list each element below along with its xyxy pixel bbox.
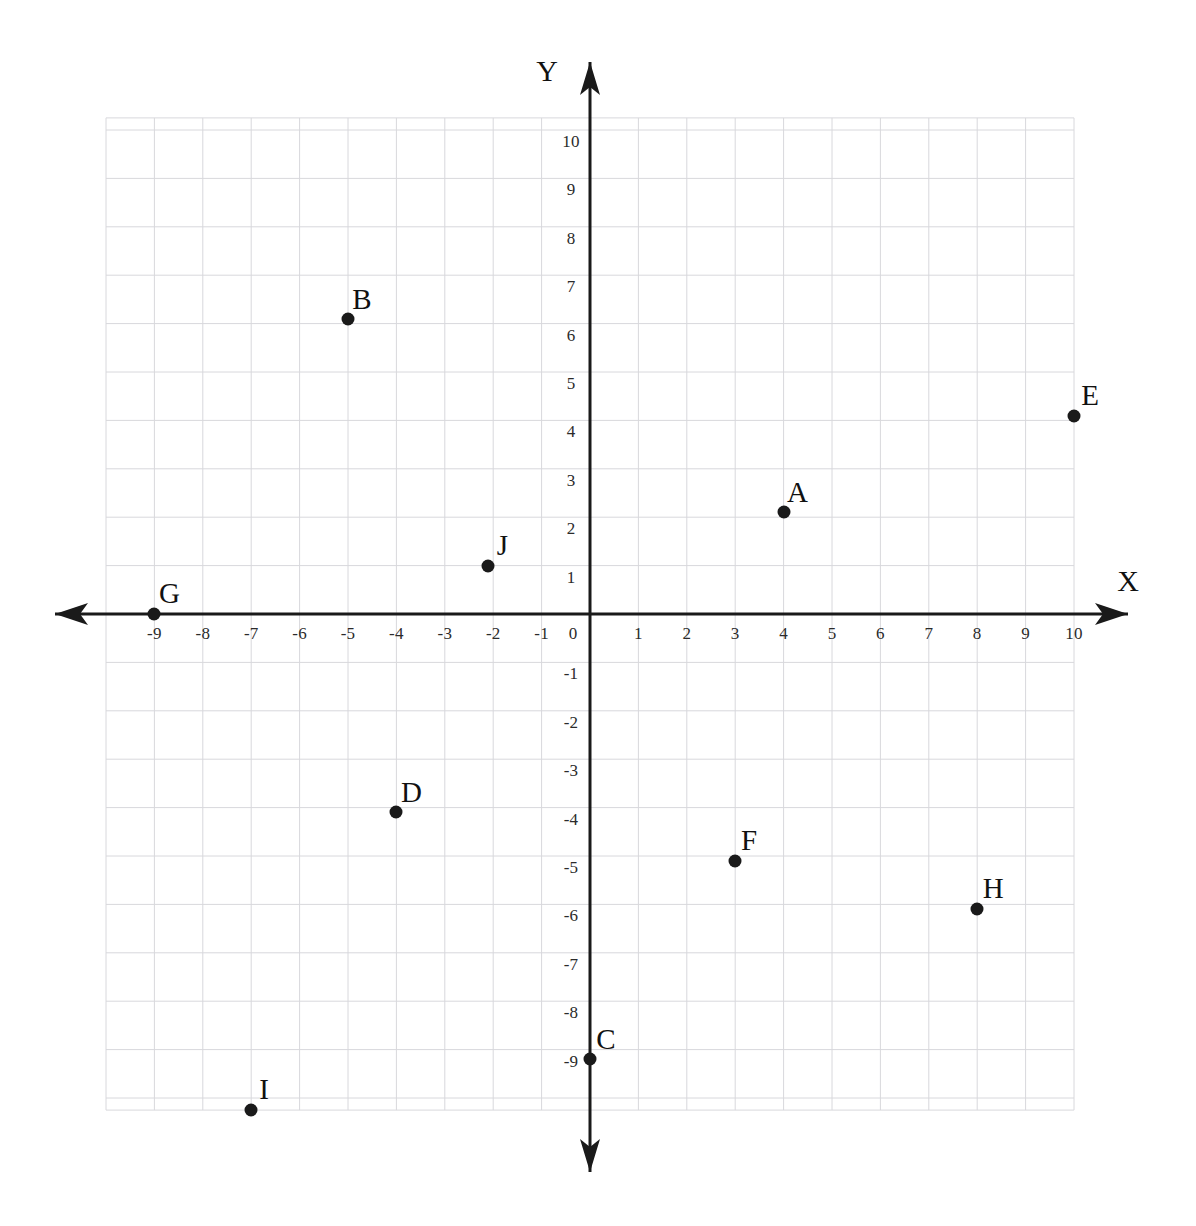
x-tick--8: -8 [196,624,211,644]
y-axis-label: Y [536,54,558,88]
y-tick-7: 7 [567,277,576,297]
point-g-label: G [159,579,180,608]
x-tick--3: -3 [438,624,453,644]
x-tick--2: -2 [486,624,501,644]
x-tick-9: 9 [1021,624,1030,644]
point-j-dot[interactable] [482,559,495,572]
y-tick--1: -1 [564,664,579,684]
point-f-label: F [741,825,757,854]
y-tick--8: -8 [564,1003,579,1023]
x-tick-2: 2 [682,624,691,644]
x-tick-4: 4 [779,624,788,644]
y-tick--9: -9 [564,1052,579,1072]
x-tick-1: 1 [634,624,643,644]
y-tick-6: 6 [567,326,576,346]
x-axis-label: X [1117,564,1139,598]
y-tick--3: -3 [564,761,579,781]
x-tick--4: -4 [389,624,404,644]
x-tick-5: 5 [828,624,837,644]
x-tick--6: -6 [292,624,307,644]
y-tick-1: 1 [567,568,576,588]
y-tick-5: 5 [567,374,576,394]
y-tick-10: 10 [562,132,579,152]
y-tick-2: 2 [567,519,576,539]
x-tick--1: -1 [534,624,549,644]
x-tick-7: 7 [924,624,933,644]
point-c-dot[interactable] [584,1053,597,1066]
x-tick-6: 6 [876,624,885,644]
point-i-dot[interactable] [245,1104,258,1117]
point-f-dot[interactable] [729,854,742,867]
x-tick--7: -7 [244,624,259,644]
coordinate-plane: -9-8-7-6-5-4-3-2-1012345678910 109876543… [0,0,1196,1226]
point-e-label: E [1081,380,1099,409]
point-b-label: B [352,284,371,313]
x-tick-10: 10 [1065,624,1082,644]
point-i-label: I [259,1075,269,1104]
point-a-label: A [787,478,808,507]
y-tick--7: -7 [564,955,579,975]
axes [55,62,1128,1172]
x-tick--5: -5 [341,624,356,644]
x-tick-8: 8 [973,624,982,644]
y-tick--6: -6 [564,906,579,926]
point-h-label: H [983,874,1004,903]
y-tick--2: -2 [564,713,579,733]
point-e-dot[interactable] [1068,409,1081,422]
x-tick-0: 0 [569,624,578,644]
y-tick-3: 3 [567,471,576,491]
y-tick-8: 8 [567,229,576,249]
point-c-label: C [596,1025,615,1054]
point-g-dot[interactable] [148,608,161,621]
y-tick--4: -4 [564,810,579,830]
y-tick-4: 4 [567,422,576,442]
x-tick-3: 3 [731,624,740,644]
point-j-label: J [497,530,508,559]
y-tick-9: 9 [567,180,576,200]
y-tick--5: -5 [564,858,579,878]
point-h-dot[interactable] [971,903,984,916]
x-tick--9: -9 [147,624,162,644]
point-d-label: D [401,778,422,807]
